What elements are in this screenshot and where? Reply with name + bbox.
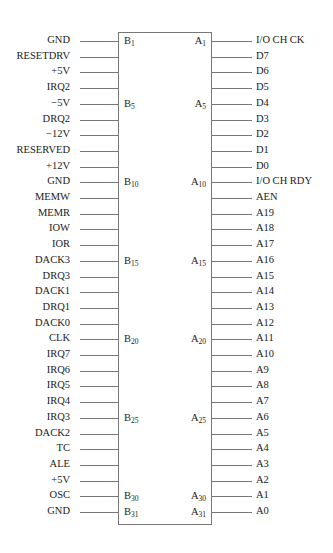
a-side-signal-label: A16 [256,253,274,267]
pin-row: TCA4 [0,441,333,457]
b-side-signal-label: RESETDRV [17,49,70,63]
pin-index: 30 [199,494,207,503]
b-side-signal-label: −5V [51,96,70,110]
a-side-pin-lead [212,167,252,168]
a-side-signal-label: D6 [256,64,269,78]
b-side-pin-lead [80,386,118,387]
pin-row: DRQ2D3 [0,112,333,128]
a-side-signal-label: D5 [256,80,269,94]
a-side-signal-label: A5 [256,426,269,440]
pin-row: DRQ3A15 [0,269,333,285]
a-side-pin-lead [212,496,252,497]
pin-row: RESETDRVD7 [0,49,333,65]
b-side-pin-lead [80,57,118,58]
b-side-signal-label: DRQ2 [43,112,70,126]
pin-row: ALEA3 [0,457,333,473]
b-side-signal-label: IRQ7 [47,347,70,361]
a-side-pin-lead [212,57,252,58]
b-side-signal-label: −12V [46,127,70,141]
pin-row: OSCB30A30A1 [0,488,333,504]
a-side-pin-lead [212,277,252,278]
b-side-pin-lead [80,72,118,73]
a-side-pin-lead [212,465,252,466]
b-side-pin-lead [80,104,118,105]
a-side-pin-lead [212,198,252,199]
b-side-pin-lead [80,120,118,121]
pin-row: DRQ1A13 [0,300,333,316]
b-side-pin-lead [80,88,118,89]
b-side-signal-label: MEMR [38,206,70,220]
b-side-signal-label: DACK3 [35,253,70,267]
pin-index: 30 [131,494,139,503]
a-side-pin-lead [212,88,252,89]
pin-letter: A [191,412,199,423]
b-side-signal-label: DACK1 [35,284,70,298]
a-side-signal-label: D1 [256,143,269,157]
b-side-pin-lead [80,277,118,278]
pin-row: MEMWAEN [0,190,333,206]
b-side-pin-lead [80,135,118,136]
b-side-pin-lead [80,292,118,293]
pin-row: CLKB20A20A11 [0,331,333,347]
b-side-signal-label: DACK2 [35,426,70,440]
b-side-signal-label: IRQ6 [47,363,70,377]
a-side-signal-label: A9 [256,363,269,377]
b-side-pin-lead [80,496,118,497]
a-side-pin-lead [212,402,252,403]
pin-letter: B [124,506,131,517]
pin-row: −5VB5A5D4 [0,96,333,112]
a-side-signal-label: D7 [256,49,269,63]
b-side-signal-label: +5V [51,64,70,78]
b-side-signal-label: OSC [50,488,70,502]
b-side-pin-lead [80,355,118,356]
a-side-pin-lead [212,120,252,121]
b-side-pin-lead [80,465,118,466]
pin-letter: A [191,176,199,187]
pin-row: DACK0A12 [0,316,333,332]
a-side-signal-label: A11 [256,331,274,345]
pin-row: IRQ2D5 [0,80,333,96]
pin-row: DACK2A5 [0,426,333,442]
a-side-signal-label: A14 [256,284,274,298]
pin-row: IRQ7A10 [0,347,333,363]
b-side-signal-label: DACK0 [35,316,70,330]
pin-row: GNDB10A10I/O CH RDY [0,174,333,190]
pin-letter: A [191,255,199,266]
b-side-signal-label: IOW [49,221,70,235]
b-side-pin-lead [80,308,118,309]
a-side-signal-label: I/O CH RDY [256,174,312,188]
pin-index: 1 [131,39,135,48]
b-side-signal-label: IRQ3 [47,410,70,424]
pin-letter: B [124,490,131,501]
a-side-signal-label: D2 [256,127,269,141]
a-side-pin-lead [212,214,252,215]
b-side-pin-lead [80,324,118,325]
a-side-pin-lead [212,72,252,73]
b-side-signal-label: +5V [51,473,70,487]
b-side-pin-lead [80,41,118,42]
b-side-pin-lead [80,229,118,230]
pin-row: IRQ5A8 [0,378,333,394]
pin-row: IORA17 [0,237,333,253]
b-side-signal-label: IRQ4 [47,394,70,408]
a-side-signal-label: A19 [256,206,274,220]
a-side-pin-lead [212,229,252,230]
a-side-pin-lead [212,135,252,136]
a-side-pin-lead [212,434,252,435]
b-side-signal-label: GND [47,504,70,518]
a-side-signal-label: A12 [256,316,274,330]
pin-letter: B [124,176,131,187]
pin-row: GNDB1A1I/O CH CK [0,33,333,49]
a-side-signal-label: D0 [256,159,269,173]
b-side-pin-lead [80,512,118,513]
pin-index: 31 [199,510,207,519]
a-side-pin-lead [212,245,252,246]
b-side-signal-label: ALE [50,457,70,471]
pin-row: IOWA18 [0,221,333,237]
pin-row: IRQ4A7 [0,394,333,410]
pin-row: +12VD0 [0,159,333,175]
a-side-pin-lead [212,371,252,372]
a-side-signal-label: AEN [256,190,278,204]
b-side-pin-lead [80,151,118,152]
a-side-signal-label: D4 [256,96,269,110]
